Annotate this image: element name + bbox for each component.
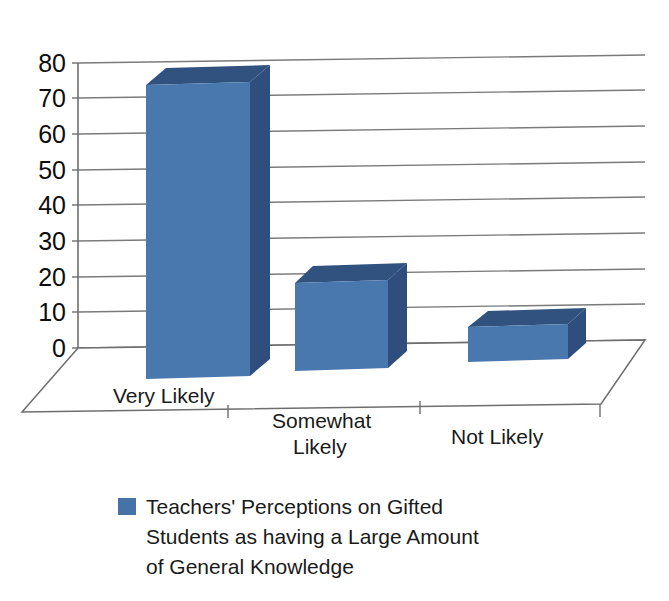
category-label-somewhat-likely-line2: Likely — [293, 435, 347, 458]
y-label-40: 40 — [38, 191, 66, 219]
legend[interactable]: Teachers' Perceptions on Gifted Students… — [118, 495, 479, 578]
bar-not-likely-front — [468, 324, 568, 362]
chart-container: 80 70 60 50 40 30 20 10 0 — [0, 0, 669, 601]
y-axis-labels: 80 70 60 50 40 30 20 10 0 — [38, 49, 66, 362]
bar-very-likely-side — [250, 65, 270, 376]
bar-somewhat-likely[interactable] — [295, 263, 407, 371]
gridline-80 — [78, 55, 645, 63]
y-label-60: 60 — [38, 120, 66, 148]
bar-chart-3d: 80 70 60 50 40 30 20 10 0 — [0, 0, 669, 601]
legend-label-line3: of General Knowledge — [146, 555, 354, 578]
legend-swatch-icon — [118, 498, 136, 515]
y-label-10: 10 — [38, 298, 66, 326]
category-label-not-likely: Not Likely — [451, 425, 544, 448]
legend-label-line2: Students as having a Large Amount — [146, 525, 479, 548]
bar-not-likely[interactable] — [468, 308, 586, 362]
y-label-0: 0 — [52, 334, 66, 362]
bar-very-likely-front — [146, 82, 250, 379]
y-label-20: 20 — [38, 263, 66, 291]
y-label-80: 80 — [38, 49, 66, 77]
y-label-50: 50 — [38, 156, 66, 184]
category-label-somewhat-likely-line1: Somewhat — [272, 409, 371, 432]
category-label-very-likely: Very Likely — [113, 384, 215, 407]
y-label-30: 30 — [38, 227, 66, 255]
y-label-70: 70 — [38, 84, 66, 112]
bar-somewhat-likely-front — [295, 280, 388, 371]
bar-somewhat-likely-side — [388, 263, 407, 368]
legend-label-line1: Teachers' Perceptions on Gifted — [146, 495, 443, 518]
bar-very-likely[interactable] — [146, 65, 270, 379]
